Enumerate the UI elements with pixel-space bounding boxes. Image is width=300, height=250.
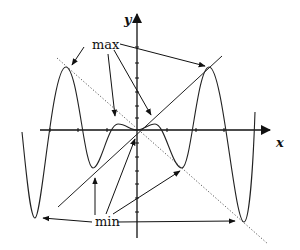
min-label: min (95, 214, 120, 229)
max-label: max (92, 37, 120, 52)
min-arrows (43, 139, 235, 222)
max-arrows (72, 44, 205, 116)
x-axis-label: x (275, 135, 284, 150)
function-curve (22, 67, 255, 222)
line-y-equals-neg-x (57, 58, 268, 244)
y-axis-label: y (123, 12, 133, 27)
x-axis (40, 128, 270, 132)
function-graph-figure: x y max min (0, 0, 300, 250)
